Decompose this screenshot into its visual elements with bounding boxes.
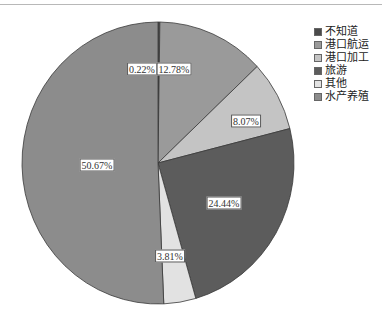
- legend-label: 港口航运: [325, 38, 369, 51]
- slice-percent-label: 0.22%: [127, 63, 157, 76]
- slice-percent-label: 3.81%: [155, 250, 185, 263]
- legend-item-unknown: 不知道: [314, 25, 369, 38]
- slice-percent-label: 12.78%: [157, 63, 192, 76]
- legend-swatch-icon: [314, 93, 322, 101]
- legend-label: 港口加工: [325, 51, 369, 64]
- legend: 不知道 港口航运 港口加工 旅游 其他 水产养殖: [314, 25, 369, 103]
- legend-label: 水产养殖: [325, 90, 369, 103]
- legend-swatch-icon: [314, 28, 322, 36]
- legend-swatch-icon: [314, 54, 322, 62]
- legend-label: 不知道: [325, 25, 358, 38]
- legend-item-port-shipping: 港口航运: [314, 38, 369, 51]
- legend-item-tourism: 旅游: [314, 64, 369, 77]
- slice-percent-label: 8.07%: [231, 115, 261, 128]
- legend-swatch-icon: [314, 80, 322, 88]
- legend-item-other: 其他: [314, 77, 369, 90]
- legend-swatch-icon: [314, 67, 322, 75]
- slice-percent-label: 50.67%: [80, 159, 115, 172]
- legend-item-aquaculture: 水产养殖: [314, 90, 369, 103]
- legend-swatch-icon: [314, 41, 322, 49]
- legend-label: 旅游: [325, 64, 347, 77]
- legend-label: 其他: [325, 77, 347, 90]
- slice-percent-label: 24.44%: [207, 197, 242, 210]
- legend-item-port-processing: 港口加工: [314, 51, 369, 64]
